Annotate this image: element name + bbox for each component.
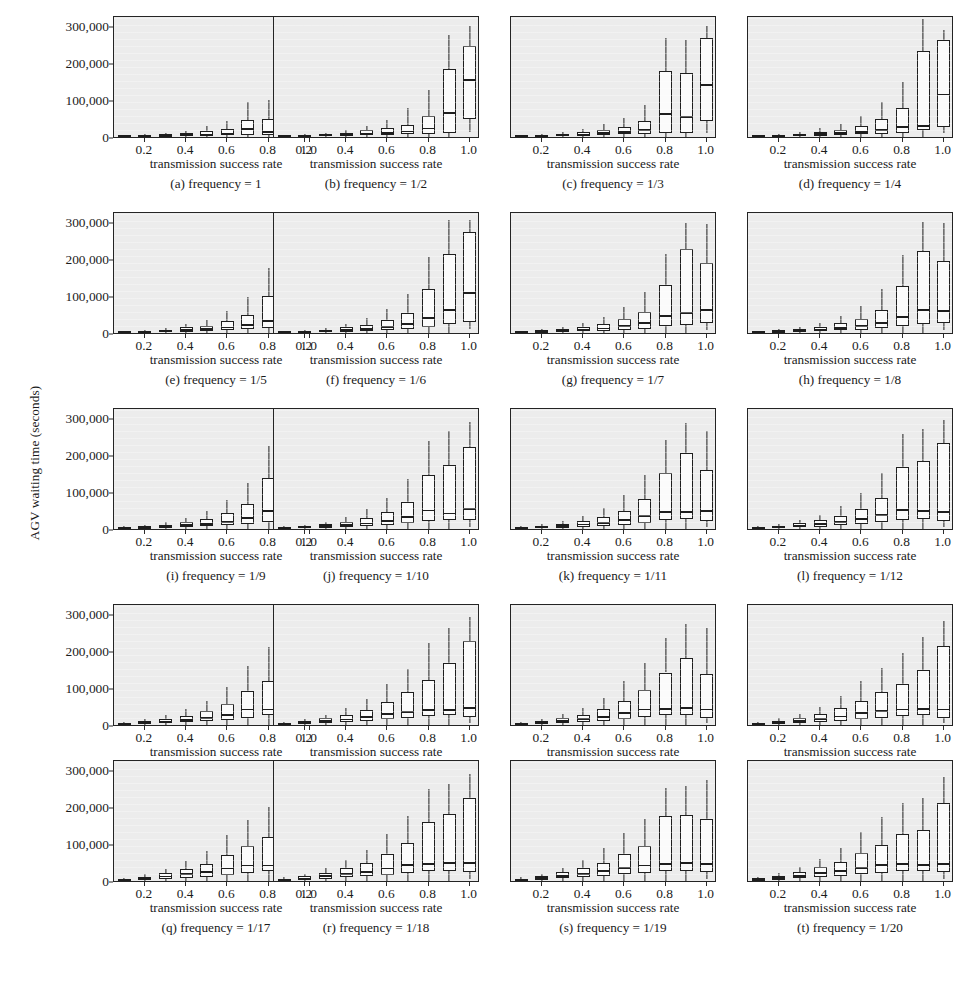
whisker-lower: [346, 722, 347, 725]
median-line: [381, 713, 394, 715]
median-line: [700, 863, 713, 865]
whisker-upper: [603, 698, 604, 710]
median-line: [138, 878, 151, 880]
box-iqr: [443, 254, 456, 325]
whisker-lower: [449, 133, 450, 137]
boxplot-n-0.2: [298, 604, 311, 725]
boxplot-i-0.3: [159, 408, 172, 529]
median-line: [659, 511, 672, 513]
y-axis-ticks: 0100,000200,000300,000: [22, 212, 113, 334]
boxplot-j-0.3: [319, 408, 332, 529]
median-line: [278, 723, 291, 725]
whisker-lower: [387, 135, 388, 137]
median-line: [772, 135, 785, 137]
plot-area-r: [273, 760, 479, 882]
median-line: [298, 722, 311, 724]
boxplot-f-0.7: [401, 212, 414, 333]
median-line: [298, 526, 311, 528]
y-tick-label: 100,000: [65, 93, 109, 109]
median-line: [875, 710, 888, 712]
median-line: [834, 870, 847, 872]
plot-area-t: [747, 760, 953, 882]
median-line: [577, 524, 590, 526]
median-line: [875, 864, 888, 866]
whisker-upper: [227, 311, 228, 321]
y-axis-ticks: 0100,000200,000300,000: [22, 408, 113, 530]
boxplot-d-0.2: [772, 16, 785, 137]
whisker-upper: [387, 309, 388, 320]
boxplot-l-0.3: [793, 408, 806, 529]
y-tick-label: 100,000: [65, 485, 109, 501]
x-axis-title: transmission success rate: [273, 156, 479, 172]
box-iqr: [638, 499, 651, 522]
whisker-upper: [366, 318, 367, 325]
whisker-lower: [407, 873, 408, 881]
panel-caption-t: (t) frequency = 1/20: [747, 920, 953, 936]
median-line: [463, 79, 476, 81]
whisker-lower: [820, 877, 821, 881]
median-line: [278, 331, 291, 333]
whisker-lower: [778, 724, 779, 725]
box-iqr: [659, 473, 672, 520]
median-line: [118, 135, 131, 137]
boxplot-e-0.4: [180, 212, 193, 333]
whisker-lower: [227, 875, 228, 881]
boxplot-t-0.4: [814, 760, 827, 881]
x-axis-title: transmission success rate: [747, 548, 953, 564]
box-iqr: [638, 846, 651, 873]
boxplot-f-0.5: [360, 212, 373, 333]
boxplot-f-0.4: [340, 212, 353, 333]
whisker-lower: [407, 523, 408, 529]
y-tick-label: 100,000: [65, 837, 109, 853]
panel-i: 0100,000200,000300,0000.20.40.60.81.0tra…: [22, 398, 244, 594]
median-line: [340, 719, 353, 721]
median-line: [535, 877, 548, 879]
boxplot-b-0.6: [381, 16, 394, 137]
boxplot-t-0.2: [772, 760, 785, 881]
whisker-upper: [227, 121, 228, 128]
whisker-upper: [686, 40, 687, 73]
whisker-upper: [624, 495, 625, 511]
whisker-upper: [943, 30, 944, 40]
whisker-lower: [923, 130, 924, 137]
boxplot-o-0.5: [597, 604, 610, 725]
x-axis-title: transmission success rate: [510, 900, 716, 916]
whisker-upper: [247, 102, 248, 120]
boxplot-o-1: [700, 604, 713, 725]
whisker-upper: [428, 257, 429, 289]
x-axis-title: transmission success rate: [273, 900, 479, 916]
box-iqr: [855, 853, 868, 874]
median-line: [443, 513, 456, 515]
median-line: [401, 864, 414, 866]
whisker-upper: [706, 431, 707, 470]
box-iqr: [221, 704, 234, 720]
boxplot-b-0.7: [401, 16, 414, 137]
boxplot-i-0.6: [221, 408, 234, 529]
box-iqr: [241, 846, 254, 873]
median-line: [814, 523, 827, 525]
boxplot-h-1: [937, 212, 950, 333]
boxplot-j-0.5: [360, 408, 373, 529]
whisker-upper: [206, 851, 207, 864]
x-axis-b: 0.20.40.60.81.0: [273, 138, 479, 156]
box-iqr: [638, 121, 651, 134]
boxplot-r-0.7: [401, 760, 414, 881]
whisker-lower: [206, 877, 207, 881]
median-line: [896, 316, 909, 318]
median-line: [680, 511, 693, 513]
box-iqr: [896, 286, 909, 327]
whisker-upper: [644, 292, 645, 312]
whisker-upper: [923, 798, 924, 830]
boxplot-h-0.9: [917, 212, 930, 333]
boxplot-a-0.7: [241, 16, 254, 137]
boxplot-f-0.1: [278, 212, 291, 333]
boxplot-b-0.1: [278, 16, 291, 137]
whisker-upper: [943, 223, 944, 261]
whisker-upper: [469, 422, 470, 447]
x-axis-n: 0.20.40.60.81.0: [273, 726, 479, 744]
x-axis-g: 0.20.40.60.81.0: [510, 334, 716, 352]
median-line: [680, 312, 693, 314]
median-line: [200, 328, 213, 330]
whisker-lower: [820, 527, 821, 529]
median-line: [597, 522, 610, 524]
